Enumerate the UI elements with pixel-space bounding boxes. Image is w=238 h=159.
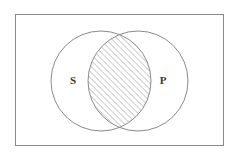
venn-diagram-figure: S P	[0, 0, 238, 159]
set-p-label: P	[160, 74, 167, 86]
set-s-label: S	[70, 74, 76, 86]
venn-diagram-canvas: S P	[0, 0, 238, 159]
